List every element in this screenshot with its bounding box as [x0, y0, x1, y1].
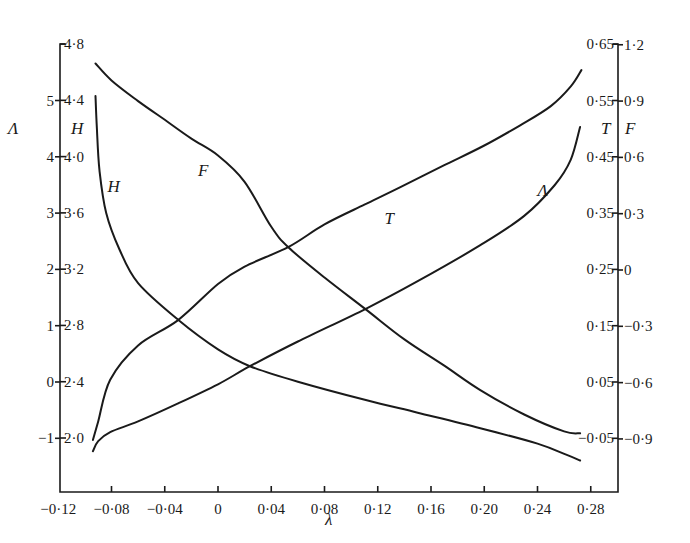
chart-figure: −0·12−0·08−0·0400·040·080·120·160·200·24…	[0, 0, 690, 543]
axis-frame-line	[60, 44, 618, 492]
curve-t	[93, 70, 582, 440]
t-tick-label: 0·35	[587, 205, 615, 221]
f-tick-label: 0	[624, 262, 632, 278]
lambda-tick-label: 3	[47, 205, 55, 221]
curve-label: F	[197, 161, 209, 180]
f-tick-label: −0·9	[624, 431, 652, 447]
t-tick-label: 0·55	[587, 93, 615, 109]
lambda-tick-label: 5	[47, 93, 55, 109]
curve-lambda	[93, 127, 580, 451]
curve-f	[96, 64, 581, 434]
tick-marks: −0·12−0·08−0·0400·040·080·120·160·200·24…	[38, 36, 653, 517]
x-tick-label: 0·12	[364, 501, 392, 517]
lambda-tick-label: 0	[47, 374, 55, 390]
curve-label: T	[384, 209, 395, 228]
left-outer-axis-title: Λ	[6, 119, 19, 138]
left-inner-axis-title: H	[70, 119, 85, 138]
h-tick-label: 4·8	[64, 36, 84, 52]
curve-label: H	[107, 177, 122, 196]
f-tick-label: −0·6	[624, 375, 653, 391]
x-tick-label: −0·12	[40, 501, 76, 517]
h-tick-label: 3·6	[64, 205, 84, 221]
h-tick-label: 4·0	[64, 149, 84, 165]
x-tick-label: −0·08	[94, 501, 130, 517]
h-tick-label: 4·4	[64, 92, 84, 108]
h-tick-label: 2·8	[64, 317, 84, 333]
curves	[93, 64, 582, 461]
right-inner-axis-title: T	[601, 119, 612, 138]
t-tick-label: −0·05	[578, 430, 614, 446]
lambda-tick-label: 4	[47, 149, 55, 165]
lambda-tick-label: 1	[47, 318, 55, 334]
t-tick-label: 0·45	[587, 149, 615, 165]
x-tick-label: 0·24	[524, 501, 552, 517]
h-tick-label: 2·4	[64, 374, 84, 390]
x-axis-title: λ	[324, 510, 332, 529]
labels: FTΛH	[107, 161, 549, 228]
lambda-tick-label: −1	[38, 430, 54, 446]
x-tick-label: 0·04	[258, 501, 286, 517]
f-tick-label: −0·3	[624, 318, 652, 334]
x-tick-label: 0·28	[577, 501, 605, 517]
x-tick-label: 0	[214, 501, 222, 517]
lambda-tick-label: 2	[47, 261, 55, 277]
f-tick-label: 1·2	[624, 37, 644, 53]
t-tick-label: 0·15	[587, 318, 615, 334]
h-tick-label: 3·2	[64, 261, 84, 277]
x-tick-label: 0·16	[417, 501, 445, 517]
t-tick-label: 0·05	[587, 374, 615, 390]
f-tick-label: 0·3	[624, 206, 644, 222]
t-tick-label: 0·65	[587, 36, 615, 52]
t-tick-label: 0·25	[587, 261, 615, 277]
f-tick-label: 0·9	[624, 93, 644, 109]
axes-frame	[60, 44, 618, 492]
f-tick-label: 0·6	[624, 149, 644, 165]
curve-label: Λ	[536, 181, 549, 200]
right-outer-axis-title: F	[624, 119, 636, 138]
x-tick-label: −0·04	[147, 501, 183, 517]
x-tick-label: 0·20	[471, 501, 499, 517]
h-tick-label: 2·0	[64, 430, 84, 446]
